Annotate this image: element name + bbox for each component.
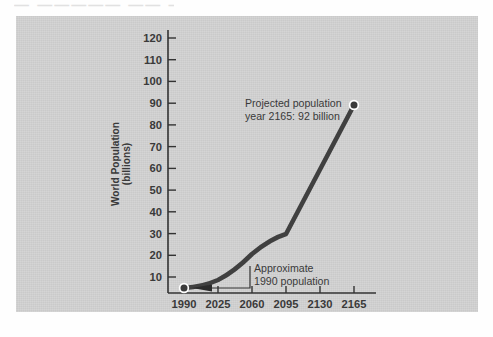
approximate-annotation-line1: Approximate bbox=[254, 262, 314, 274]
y-tick-label-50: 50 bbox=[150, 184, 162, 196]
projected-annotation-line1: Projected population bbox=[245, 97, 342, 109]
page-root: — ————— —— ——— —— bbox=[0, 0, 493, 337]
y-tick-label-120: 120 bbox=[143, 32, 162, 44]
population-curve bbox=[184, 105, 354, 288]
y-tick-label-80: 80 bbox=[150, 119, 162, 131]
y-axis-title-line1: World Population bbox=[110, 122, 121, 206]
data-series-world-population bbox=[184, 105, 354, 288]
y-axis: 120 110 100 90 80 70 60 50 40 30 20 10 W… bbox=[110, 30, 176, 293]
x-axis: 1990 2025 2060 2095 2130 2165 bbox=[168, 286, 376, 310]
y-tick-label-40: 40 bbox=[150, 206, 162, 218]
x-axis-tick-labels: 1990 2025 2060 2095 2130 2165 bbox=[172, 298, 367, 310]
y-tick-label-30: 30 bbox=[150, 228, 162, 240]
figure-panel: 120 110 100 90 80 70 60 50 40 30 20 10 W… bbox=[16, 16, 478, 312]
y-axis-tick-labels: 120 110 100 90 80 70 60 50 40 30 20 10 bbox=[143, 32, 162, 283]
y-tick-label-60: 60 bbox=[150, 162, 162, 174]
x-tick-label-2060: 2060 bbox=[240, 298, 265, 310]
projected-annotation-line2: year 2165: 92 billion bbox=[245, 110, 340, 122]
y-axis-title: World Population (billions) bbox=[110, 122, 132, 206]
x-tick-label-2130: 2130 bbox=[308, 298, 333, 310]
marker-1990-dot bbox=[181, 285, 188, 292]
y-tick-label-20: 20 bbox=[150, 249, 162, 261]
y-tick-label-110: 110 bbox=[144, 54, 162, 66]
population-line-chart: 120 110 100 90 80 70 60 50 40 30 20 10 W… bbox=[16, 16, 478, 312]
x-tick-label-2025: 2025 bbox=[206, 298, 231, 310]
projected-population-annotation: Projected population year 2165: 92 billi… bbox=[245, 97, 342, 122]
x-tick-label-1990: 1990 bbox=[172, 298, 197, 310]
y-axis-ticks bbox=[168, 38, 176, 277]
x-tick-label-2165: 2165 bbox=[342, 298, 367, 310]
y-tick-label-10: 10 bbox=[150, 271, 162, 283]
y-tick-label-70: 70 bbox=[150, 141, 162, 153]
approximate-1990-annotation: Approximate 1990 population bbox=[192, 262, 330, 292]
marker-2165-dot bbox=[351, 102, 358, 109]
y-axis-title-line2: (billions) bbox=[121, 143, 132, 185]
approximate-annotation-line2: 1990 population bbox=[254, 275, 330, 287]
cut-off-header-text: — ————— —— ——— —— bbox=[14, 0, 174, 9]
y-tick-label-90: 90 bbox=[150, 97, 162, 109]
x-tick-label-2095: 2095 bbox=[274, 298, 299, 310]
y-tick-label-100: 100 bbox=[143, 75, 162, 87]
